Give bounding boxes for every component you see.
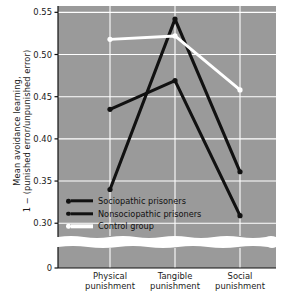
- legend-line-icon: [71, 199, 93, 202]
- legend-key: [66, 197, 94, 206]
- x-axis-tick-label: Socialpunishment: [215, 271, 265, 291]
- legend-marker-icon: [66, 224, 71, 229]
- chart-legend: Sociopathic prisonersNonsociopathic pris…: [66, 196, 201, 231]
- legend-label: Sociopathic prisoners: [98, 196, 186, 206]
- x-axis-tick-label-line: punishment: [150, 281, 200, 291]
- chart-figure: Mean avoidance learning, 1 − (punished e…: [0, 0, 289, 294]
- x-axis-tick-label-line: punishment: [85, 281, 135, 291]
- x-axis-tick-label: Tangiblepunishment: [150, 271, 200, 291]
- legend-marker-icon: [66, 211, 71, 216]
- legend-line-icon: [71, 212, 93, 215]
- x-axis-tick-label: Physicalpunishment: [85, 271, 135, 291]
- legend-item: Nonsociopathic prisoners: [66, 209, 201, 219]
- legend-label: Control group: [98, 221, 154, 231]
- x-axis-tick-label-line: Tangible: [150, 271, 200, 281]
- x-axis-tick-labels: PhysicalpunishmentTangiblepunishmentSoci…: [0, 0, 289, 294]
- x-axis-tick-label-line: punishment: [215, 281, 265, 291]
- legend-label: Nonsociopathic prisoners: [98, 209, 201, 219]
- legend-key: [66, 209, 94, 218]
- x-axis-tick-label-line: Social: [215, 271, 265, 281]
- legend-item: Control group: [66, 221, 201, 231]
- legend-item: Sociopathic prisoners: [66, 196, 201, 206]
- legend-marker-icon: [66, 199, 71, 204]
- legend-line-icon: [71, 224, 93, 227]
- x-axis-tick-label-line: Physical: [85, 271, 135, 281]
- legend-key: [66, 222, 94, 231]
